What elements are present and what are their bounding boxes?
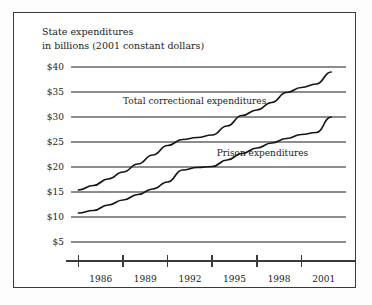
series-label-prison: Prison expenditures xyxy=(217,148,309,158)
y-tick-label: $20 xyxy=(47,162,64,172)
x-tick-label: 1995 xyxy=(223,274,246,284)
y-tick-label: $35 xyxy=(47,87,64,97)
y-axis-tick-labels: $40$35$30$25$20$15$10$5 xyxy=(47,62,64,247)
y-tick-label: $25 xyxy=(47,137,64,147)
x-tick-label: 1986 xyxy=(89,274,112,284)
figure-frame: $40$35$30$25$20$15$10$5 Total correction… xyxy=(13,12,356,288)
x-tick-label: 1992 xyxy=(178,274,201,284)
y-tick-label: $30 xyxy=(47,112,64,122)
x-tick-label: 2001 xyxy=(312,274,335,284)
series-annotations-group: Total correctional expendituresPrison ex… xyxy=(123,96,309,158)
x-tick-label: 1989 xyxy=(134,274,157,284)
x-axis-tick-labels: 198619891992199519982001 xyxy=(89,274,335,284)
y-tick-label: $10 xyxy=(47,212,64,222)
series-line-total-correctional xyxy=(78,72,331,190)
x-tick-label: 1998 xyxy=(268,274,291,284)
chart-title-line-1: State expenditures xyxy=(42,26,133,37)
series-line-prison xyxy=(78,117,331,213)
y-tick-label: $15 xyxy=(47,187,64,197)
line-chart: $40$35$30$25$20$15$10$5 Total correction… xyxy=(14,13,357,289)
y-tick-label: $40 xyxy=(47,62,64,72)
series-label-total-correctional: Total correctional expenditures xyxy=(123,96,267,106)
figure-root: $40$35$30$25$20$15$10$5 Total correction… xyxy=(0,0,372,305)
chart-title-line-2: in billions (2001 constant dollars) xyxy=(42,40,204,51)
x-axis-group xyxy=(66,255,356,267)
y-tick-label: $5 xyxy=(53,237,65,247)
